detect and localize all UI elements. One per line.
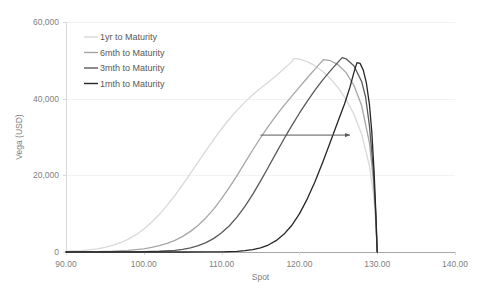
series-line-3 xyxy=(66,63,377,252)
x-tick-label-140: 140.00 xyxy=(442,259,468,269)
x-tick-label-110: 110.00 xyxy=(209,259,235,269)
y-tick-label-60000: 60,000 xyxy=(33,17,59,27)
chart-canvas: 90.00100.00110.00120.00130.00140.00 020,… xyxy=(0,0,485,294)
x-tick-labels: 90.00100.00110.00120.00130.00140.00 xyxy=(55,259,468,269)
x-tick-label-130: 130.00 xyxy=(364,259,390,269)
legend-label-2: 3mth to Maturity xyxy=(100,63,165,73)
y-axis-title: Vega (USD) xyxy=(14,114,24,160)
annotations-group xyxy=(261,133,350,137)
x-tick-label-100: 100.00 xyxy=(131,259,157,269)
axis-titles: SpotVega (USD) xyxy=(14,114,270,282)
x-tick-label-90: 90.00 xyxy=(55,259,77,269)
legend-label-1: 6mth to Maturity xyxy=(100,48,165,58)
time-decay-arrow-head xyxy=(345,133,350,137)
chart-legend: 1yr to Maturity6mth to Maturity3mth to M… xyxy=(84,32,165,88)
y-tick-label-20000: 20,000 xyxy=(33,170,59,180)
y-tick-label-0: 0 xyxy=(54,247,59,257)
legend-label-0: 1yr to Maturity xyxy=(100,32,158,42)
x-tick-label-120: 120.00 xyxy=(286,259,312,269)
vega-vs-spot-chart: 90.00100.00110.00120.00130.00140.00 020,… xyxy=(0,0,485,294)
gridlines-group xyxy=(66,23,455,176)
y-tick-label-40000: 40,000 xyxy=(33,94,59,104)
x-axis-title: Spot xyxy=(252,272,270,282)
legend-label-3: 1mth to Maturity xyxy=(100,79,165,89)
y-tick-labels: 020,00040,00060,000 xyxy=(33,17,59,257)
